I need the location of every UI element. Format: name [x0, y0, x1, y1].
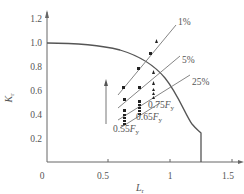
label-065fy: 0.65Fy [136, 112, 162, 124]
y-tick-label: 0.2 [30, 134, 42, 144]
square-marker [138, 100, 141, 103]
label-5pct: 5% [182, 55, 195, 65]
x-axis-arrow-icon [238, 160, 244, 164]
square-marker [122, 86, 125, 89]
y-tick-label: 0.6 [30, 86, 42, 96]
y-tick-label: 0.8 [30, 62, 42, 72]
triangle-marker [152, 70, 155, 74]
square-marker [123, 109, 126, 112]
square-marker [123, 98, 126, 101]
x-tick-label: 1.5 [222, 171, 234, 181]
label-075fy: 0.75Fy [148, 100, 174, 112]
triangle-marker [152, 81, 155, 85]
square-marker [137, 67, 140, 70]
square-marker [138, 86, 141, 89]
label-055fy: 0.55Fy [113, 124, 139, 136]
load-line-1pct [118, 25, 176, 95]
triangle-marker [155, 39, 158, 43]
label-25pct: 25% [192, 77, 210, 87]
y-tick-label: 1.2 [30, 14, 42, 24]
arrow-up-icon [104, 79, 108, 86]
square-marker [149, 52, 152, 55]
y-tick-label: 0.4 [30, 110, 42, 120]
failure-assessment-chart: 1.2 1.0 0.8 0.6 0.4 0.2 0 0.5 1 1.5 Kr L… [0, 0, 244, 194]
x-tick-label: 0.5 [97, 171, 109, 181]
x-tick-label: 1 [168, 171, 173, 181]
x-tick-label: 0 [40, 171, 45, 181]
y-axis-arrow-icon [45, 10, 49, 18]
y-axis-label: Kr [3, 93, 16, 104]
label-1pct: 1% [178, 17, 191, 27]
x-axis-label: Lr [135, 182, 145, 194]
y-tick-label: 1.0 [30, 38, 42, 48]
